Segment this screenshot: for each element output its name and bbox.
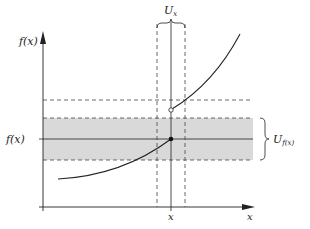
ux-label: Ux xyxy=(164,4,177,18)
open-point xyxy=(169,108,173,112)
diagram-canvas: f(x) f(x) Ux Uf(x) x x xyxy=(0,0,310,229)
ufx-brace-icon xyxy=(260,118,269,160)
filled-point xyxy=(169,137,174,142)
x-axis-label: x xyxy=(247,211,253,222)
y-axis-label: f(x) xyxy=(18,35,38,48)
fx-value-label: f(x) xyxy=(5,133,25,146)
curve-right-branch xyxy=(172,34,240,109)
x-axis-arrow-icon xyxy=(242,204,255,210)
x-point-label: x xyxy=(168,211,174,222)
ufx-label: Uf(x) xyxy=(273,133,295,147)
y-axis-arrow-icon xyxy=(40,31,46,44)
